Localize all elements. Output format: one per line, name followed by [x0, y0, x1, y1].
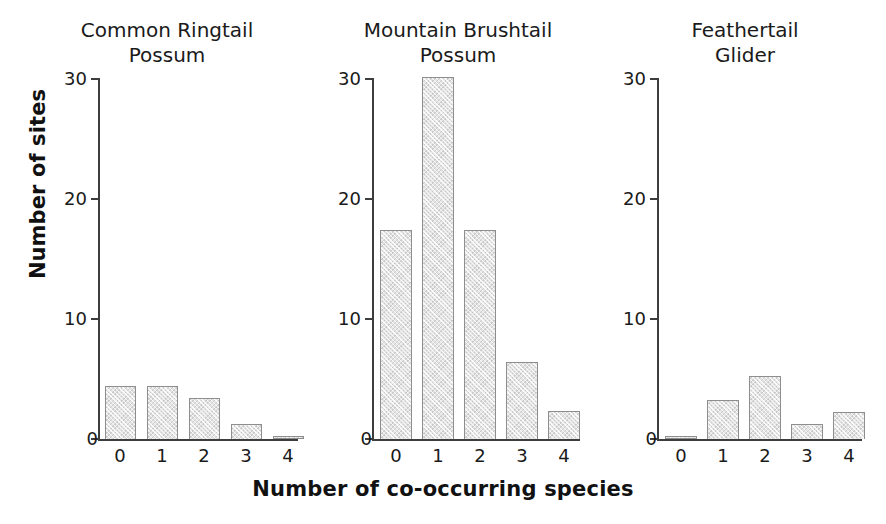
y-tick-20 — [650, 198, 657, 200]
bar-4 — [833, 412, 865, 439]
chart-panel-feathertail-glider: Feathertail Glider 30 20 10 0 0 1 2 3 4 — [604, 0, 886, 470]
bar-1 — [147, 386, 178, 439]
y-tick-label-0: 0 — [64, 430, 98, 448]
bar-0 — [380, 230, 412, 439]
x-tick-label-2: 2 — [752, 446, 778, 466]
bar-3 — [506, 362, 538, 439]
x-axis-line — [98, 439, 298, 441]
x-tick-label-3: 3 — [509, 446, 535, 466]
plot-area: 30 20 10 0 0 1 2 3 4 — [22, 0, 312, 470]
y-axis-line — [372, 78, 374, 440]
y-tick-label-10: 10 — [53, 310, 87, 328]
y-tick-20 — [91, 198, 98, 200]
y-tick-label-20: 20 — [327, 190, 361, 208]
bar-1 — [707, 400, 739, 439]
x-tick-label-1: 1 — [149, 446, 175, 466]
x-axis-line — [372, 439, 580, 441]
x-tick-label-3: 3 — [794, 446, 820, 466]
bar-4 — [548, 411, 580, 439]
y-tick-10 — [650, 318, 657, 320]
bar-1 — [422, 77, 454, 439]
plot-area: 30 20 10 0 0 1 2 3 4 — [312, 0, 604, 470]
y-tick-30 — [91, 78, 98, 80]
y-tick-label-30: 30 — [327, 70, 361, 88]
y-tick-label-20: 20 — [612, 190, 646, 208]
y-axis-line — [657, 78, 659, 440]
x-tick-label-2: 2 — [191, 446, 217, 466]
y-tick-label-0: 0 — [338, 430, 372, 448]
bar-0 — [665, 436, 697, 439]
x-tick-label-3: 3 — [233, 446, 259, 466]
y-tick-20 — [365, 198, 372, 200]
x-tick-label-0: 0 — [107, 446, 133, 466]
bar-0 — [105, 386, 136, 439]
y-tick-label-20: 20 — [53, 190, 87, 208]
y-tick-label-10: 10 — [327, 310, 361, 328]
y-tick-10 — [365, 318, 372, 320]
x-axis-title: Number of co-occurring species — [0, 477, 886, 501]
y-tick-label-0: 0 — [623, 430, 657, 448]
y-tick-label-30: 30 — [612, 70, 646, 88]
y-tick-label-10: 10 — [612, 310, 646, 328]
x-tick-label-1: 1 — [710, 446, 736, 466]
bar-4 — [273, 436, 304, 439]
y-tick-30 — [365, 78, 372, 80]
x-tick-label-4: 4 — [275, 446, 301, 466]
bar-3 — [231, 424, 262, 439]
y-tick-label-30: 30 — [53, 70, 87, 88]
x-tick-label-4: 4 — [836, 446, 862, 466]
y-tick-30 — [650, 78, 657, 80]
bar-3 — [791, 424, 823, 439]
bar-2 — [464, 230, 496, 439]
x-tick-label-1: 1 — [425, 446, 451, 466]
x-tick-label-4: 4 — [551, 446, 577, 466]
chart-panel-mountain-brushtail-possum: Mountain Brushtail Possum 30 20 10 0 0 1… — [312, 0, 604, 470]
bar-2 — [189, 398, 220, 439]
x-tick-label-2: 2 — [467, 446, 493, 466]
x-axis-line — [657, 439, 862, 441]
x-tick-label-0: 0 — [383, 446, 409, 466]
chart-panel-common-ringtail-possum: Common Ringtail Possum 30 20 10 0 0 1 2 … — [22, 0, 312, 470]
y-tick-10 — [91, 318, 98, 320]
y-axis-line — [98, 78, 100, 440]
plot-area: 30 20 10 0 0 1 2 3 4 — [604, 0, 886, 470]
bar-2 — [749, 376, 781, 439]
x-tick-label-0: 0 — [668, 446, 694, 466]
